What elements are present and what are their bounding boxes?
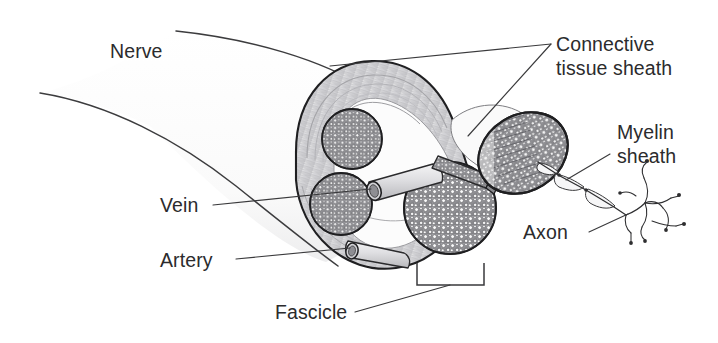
label-vein: Vein [160,194,198,216]
label-connective-tissue-sheath-line1: Connective [556,33,655,55]
label-fascicle: Fascicle [275,301,347,323]
terminal-bouton-6 [664,228,668,232]
terminal-bouton-5 [629,241,633,245]
terminal-bouton-3 [682,222,686,226]
nerve-anatomy-figure: Nerve Connective tissue sheath Myelin sh… [0,0,718,343]
label-nerve: Nerve [110,40,163,62]
fascicle-bracket [417,263,484,285]
node-of-ranvier-2 [584,188,588,192]
axon-terminal-arborization [618,159,686,245]
node-of-ranvier-1 [557,173,561,177]
terminal-bouton-7 [618,191,622,195]
leader-fascicle [355,285,450,312]
fascicle-lower-left [310,173,372,235]
leader-connective-tissue-epineurium [330,44,551,66]
nerve-cross-section [296,61,500,269]
terminal-bouton-4 [643,239,647,243]
label-artery: Artery [160,249,213,271]
nerve-diagram-svg: Nerve Connective tissue sheath Myelin sh… [0,0,718,343]
label-connective-tissue-sheath-line2: tissue sheath [556,57,672,79]
terminal-bouton-2 [677,193,681,197]
fascicle-upper-left [322,109,382,169]
leader-myelin-sheath [566,154,610,180]
label-myelin-sheath-line1: Myelin [617,121,674,143]
leader-axon [589,214,628,232]
label-axon: Axon [523,221,568,243]
myelin-internodes [537,163,615,208]
label-myelin-sheath-line2: sheath [617,145,676,167]
